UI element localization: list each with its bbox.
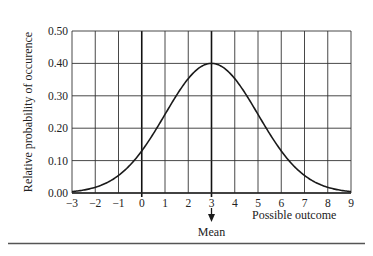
x-tick-label: 3 <box>209 197 215 209</box>
x-tick-label: 1 <box>162 197 168 209</box>
x-tick-label: −3 <box>66 197 78 209</box>
chart-grid <box>72 31 351 197</box>
y-tick-label: 0.20 <box>48 122 68 134</box>
normal-distribution-chart: 0.000.100.200.300.400.50 −3−2−1012345678… <box>0 0 373 256</box>
mean-arrowhead-icon <box>208 214 215 222</box>
x-tick-label: −1 <box>112 197 124 209</box>
x-tick-label: 0 <box>139 197 145 209</box>
y-tick-label: 0.10 <box>48 155 68 167</box>
x-tick-label: −2 <box>89 197 101 209</box>
mean-annotation: Mean <box>198 208 225 239</box>
x-tick-label: 4 <box>232 197 238 209</box>
y-tick-label: 0.30 <box>48 90 68 102</box>
x-tick-label: 2 <box>185 197 191 209</box>
x-axis-label: Possible outcome <box>252 208 336 222</box>
y-tick-label: 0.40 <box>48 57 68 69</box>
x-tick-label: 9 <box>348 197 354 209</box>
y-axis-label: Relative probability of occurence <box>21 32 35 192</box>
y-axis-ticks: 0.000.100.200.300.400.50 <box>48 25 68 199</box>
mean-label: Mean <box>198 225 225 239</box>
y-tick-label: 0.50 <box>48 25 68 37</box>
